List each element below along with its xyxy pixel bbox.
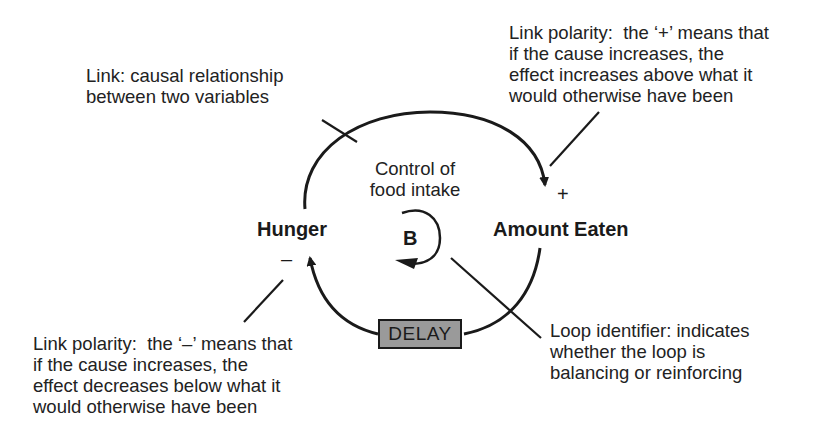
- delay-box: DELAY: [378, 319, 462, 349]
- annotation-positive-polarity: Link polarity: the ‘+’ means that if the…: [509, 22, 769, 106]
- loop-identifier: B: [403, 227, 417, 250]
- annotation-negative-polarity: Link polarity: the ‘–’ means that if the…: [33, 333, 292, 417]
- variable-hunger: Hunger: [257, 218, 327, 241]
- loop-arrowhead-icon: [395, 258, 418, 269]
- annotation-link: Link: causal relationship between two va…: [86, 65, 283, 107]
- leader-positive-polarity: [550, 112, 599, 166]
- leader-negative-polarity: [244, 280, 283, 322]
- polarity-minus: –: [281, 248, 292, 271]
- loop-name: Control of food intake: [365, 158, 465, 200]
- link-amount-eaten-to-delay: [464, 248, 540, 334]
- annotation-loop-identifier: Loop identifier: indicates whether the l…: [550, 320, 750, 383]
- leader-loop-identifier: [451, 258, 541, 338]
- polarity-plus: +: [557, 183, 569, 206]
- variable-amount-eaten: Amount Eaten: [493, 218, 629, 241]
- link-delay-to-hunger: [310, 258, 378, 334]
